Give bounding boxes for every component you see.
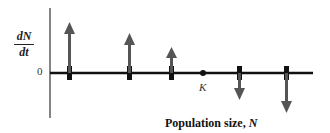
x-label-text: Population size,: [165, 116, 249, 130]
y-axis-label: dN dt: [14, 30, 34, 59]
x-label-var: N: [249, 116, 258, 130]
diagram-canvas: [0, 0, 330, 133]
k-label: K: [199, 81, 206, 93]
y-label-numerator: dN: [14, 30, 34, 45]
equilibrium-k-point: [200, 70, 206, 76]
arrow-up-3: [166, 47, 177, 80]
y-zero-label: 0: [37, 65, 43, 77]
arrow-down-1: [234, 66, 245, 100]
x-axis-label: Population size, N: [165, 116, 257, 131]
arrow-up-1: [64, 22, 75, 80]
y-label-denominator: dt: [14, 45, 34, 59]
